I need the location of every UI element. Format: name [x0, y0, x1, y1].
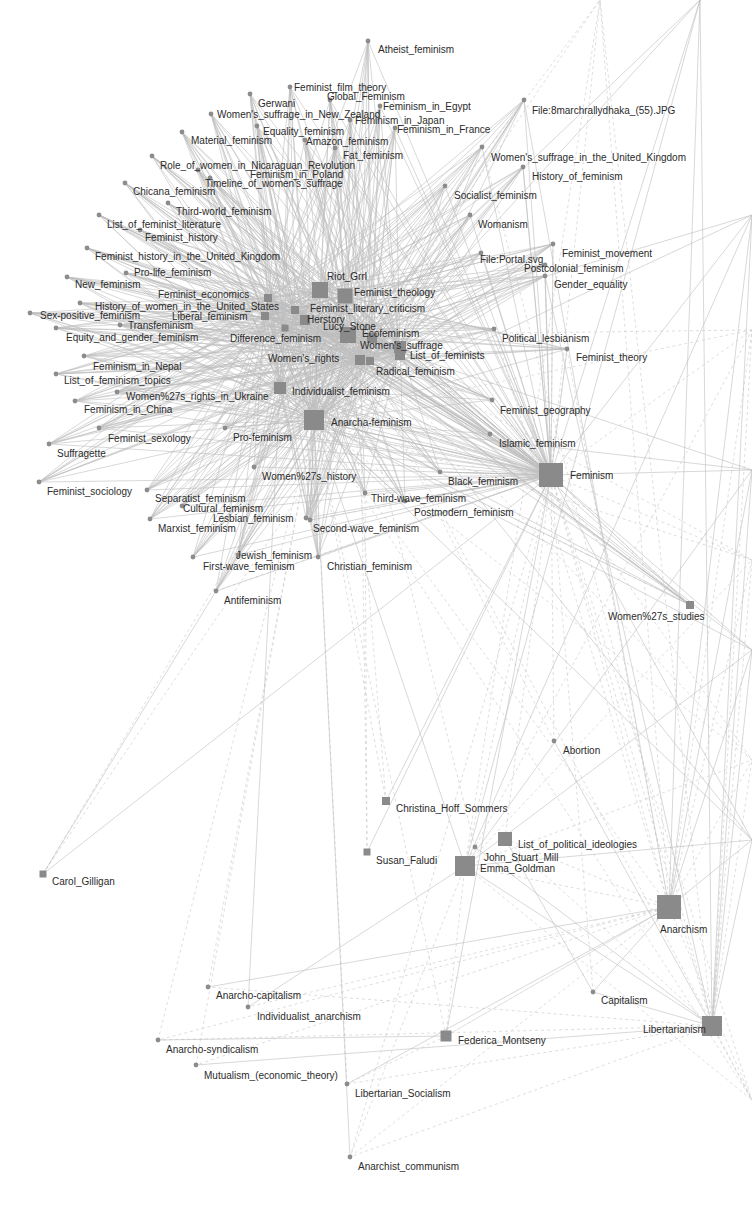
node-label[interactable]: Suffragette — [57, 448, 106, 459]
graph-node[interactable] — [37, 480, 42, 485]
graph-node[interactable] — [206, 985, 211, 990]
graph-node[interactable] — [78, 301, 83, 306]
node-label[interactable]: Amazon_feminism — [306, 136, 388, 147]
node-label[interactable]: Womanism — [478, 219, 528, 230]
graph-node[interactable] — [248, 92, 253, 97]
graph-node[interactable] — [455, 856, 475, 876]
graph-node[interactable] — [490, 398, 495, 403]
graph-node[interactable] — [82, 354, 87, 359]
node-label[interactable]: Transfeminism — [128, 320, 193, 331]
node-label[interactable]: Riot_Grrl — [327, 271, 367, 282]
graph-node[interactable] — [473, 845, 478, 850]
graph-node[interactable] — [382, 797, 390, 805]
node-label[interactable]: File:8marchrallydhaka_(55).JPG — [532, 105, 676, 116]
graph-node[interactable] — [438, 470, 443, 475]
graph-node[interactable] — [40, 871, 47, 878]
graph-node[interactable] — [552, 739, 557, 744]
node-label[interactable]: Feminist_movement — [562, 248, 652, 259]
graph-node[interactable] — [65, 275, 70, 280]
node-label[interactable]: Black_feminism — [448, 476, 518, 487]
graph-node[interactable] — [521, 165, 526, 170]
graph-node[interactable] — [274, 382, 286, 394]
node-label[interactable]: Atheist_feminism — [378, 44, 454, 55]
graph-node[interactable] — [145, 488, 150, 493]
graph-node[interactable] — [194, 1063, 199, 1068]
node-label[interactable]: Chicana_feminism — [133, 186, 215, 197]
graph-node[interactable] — [54, 372, 59, 377]
node-label[interactable]: List_of_feminists — [410, 350, 484, 361]
graph-node[interactable] — [214, 589, 219, 594]
node-label[interactable]: Third-wave_feminism — [371, 493, 466, 504]
node-label[interactable]: Feminist_economics — [158, 289, 249, 300]
node-label[interactable]: Second-wave_feminism — [313, 523, 419, 534]
node-label[interactable]: Pro-feminism — [233, 432, 292, 443]
node-label[interactable]: Feminist_theory — [576, 352, 647, 363]
node-label[interactable]: Abortion — [563, 745, 600, 756]
node-label[interactable]: Libertarianism — [643, 1024, 706, 1035]
graph-node[interactable] — [209, 112, 214, 117]
node-label[interactable]: Capitalism — [601, 995, 648, 1006]
graph-node[interactable] — [565, 347, 570, 352]
node-label[interactable]: Feminist_theology — [354, 287, 435, 298]
node-label[interactable]: Anarcho-capitalism — [216, 990, 301, 1001]
node-label[interactable]: Socialist_feminism — [454, 190, 537, 201]
graph-node[interactable] — [166, 201, 171, 206]
graph-node[interactable] — [366, 39, 371, 44]
graph-node[interactable] — [246, 1005, 251, 1010]
graph-node[interactable] — [543, 274, 548, 279]
node-label[interactable]: Feminism_in_France — [397, 124, 491, 135]
graph-node[interactable] — [657, 895, 681, 919]
graph-node[interactable] — [551, 242, 556, 247]
graph-node[interactable] — [304, 410, 324, 430]
node-label[interactable]: List_of_feminist_literature — [107, 219, 221, 230]
node-label[interactable]: Gerwani — [258, 98, 295, 109]
graph-node[interactable] — [492, 327, 497, 332]
node-label[interactable]: Feminism_in_China — [84, 404, 173, 415]
node-label[interactable]: Anarcha-feminism — [331, 417, 412, 428]
node-label[interactable]: Women%27s_history — [262, 471, 356, 482]
node-label[interactable]: Feminist_history — [145, 232, 218, 243]
graph-node[interactable] — [686, 601, 694, 609]
graph-node[interactable] — [443, 184, 448, 189]
graph-node[interactable] — [124, 271, 129, 276]
graph-node[interactable] — [54, 326, 59, 331]
node-label[interactable]: Women%27s_studies — [608, 611, 705, 622]
graph-node[interactable] — [115, 390, 120, 395]
graph-node[interactable] — [191, 555, 196, 560]
graph-node[interactable] — [73, 399, 78, 404]
graph-node[interactable] — [291, 306, 299, 314]
graph-node[interactable] — [156, 1038, 161, 1043]
node-label[interactable]: Islamic_feminism — [499, 438, 576, 449]
graph-node[interactable] — [282, 325, 289, 332]
graph-node[interactable] — [468, 213, 473, 218]
graph-node[interactable] — [338, 289, 353, 304]
node-label[interactable]: History_of_feminism — [532, 171, 623, 182]
node-label[interactable]: Material_feminism — [191, 135, 272, 146]
node-label[interactable]: Women%27s_rights_in_Ukraine — [126, 391, 269, 402]
node-label[interactable]: Women's_suffrage_in_the_United_Kingdom — [491, 152, 686, 163]
graph-node[interactable] — [47, 442, 52, 447]
graph-node[interactable] — [378, 104, 383, 109]
node-label[interactable]: New_feminism — [75, 279, 141, 290]
node-label[interactable]: Gender_equality — [554, 279, 627, 290]
graph-node[interactable] — [312, 282, 328, 298]
node-label[interactable]: List_of_feminism_topics — [64, 375, 171, 386]
graph-node[interactable] — [148, 517, 153, 522]
graph-node[interactable] — [97, 426, 102, 431]
node-label[interactable]: Postmodern_feminism — [414, 507, 513, 518]
node-label[interactable]: Feminism — [570, 470, 613, 481]
graph-node[interactable] — [261, 312, 269, 320]
node-label[interactable]: Feminism_in_Egypt — [383, 101, 471, 112]
node-label[interactable]: Sex-positive_feminism — [40, 310, 140, 321]
graph-node[interactable] — [316, 555, 321, 560]
node-label[interactable]: Carol_Gilligan — [52, 876, 115, 887]
graph-node[interactable] — [498, 832, 512, 846]
node-label[interactable]: Individualist_anarchism — [257, 1011, 361, 1022]
graph-node[interactable] — [522, 98, 527, 103]
node-label[interactable]: Libertarian_Socialism — [355, 1088, 451, 1099]
graph-node[interactable] — [591, 990, 596, 995]
graph-node[interactable] — [395, 350, 405, 360]
node-label[interactable]: Anarchism — [660, 924, 707, 935]
node-label[interactable]: Marxist_feminism — [158, 523, 236, 534]
graph-node[interactable] — [85, 246, 90, 251]
